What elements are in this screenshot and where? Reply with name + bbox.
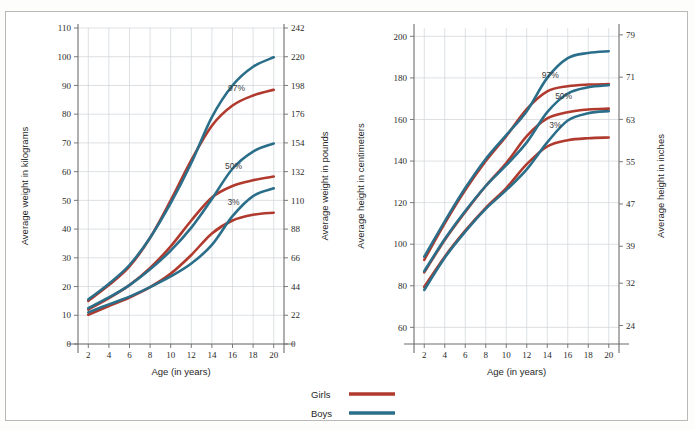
growth-chart-figure: 0102030405060708090100110022446688110132… — [0, 0, 695, 430]
axis-tick-label: 39 — [626, 241, 636, 251]
axis-tick-label: 10 — [502, 350, 512, 360]
axis-tick-label: 60 — [62, 167, 72, 177]
height-chart: 6080100120140160180200243239475563717924… — [346, 12, 687, 420]
axis-tick-label: 2 — [86, 350, 91, 360]
axis-tick-label: 6 — [127, 350, 132, 360]
axis-tick-label: 8 — [148, 350, 153, 360]
percentile-curve — [88, 177, 273, 310]
percentile-annotation: 50% — [225, 161, 242, 171]
axis-tick-label: 44 — [291, 282, 301, 292]
axis-tick-label: 50 — [62, 196, 72, 206]
axis-tick-label: 12 — [187, 350, 196, 360]
axis-tick-label: 16 — [563, 350, 573, 360]
percentile-annotation: 3% — [227, 197, 240, 207]
axis-tick-label: 55 — [626, 157, 636, 167]
axis-tick-label: 90 — [62, 81, 72, 91]
axis-tick-label: 71 — [626, 72, 635, 82]
axis-tick-label: 32 — [626, 278, 635, 288]
axis-tick-label: 8 — [484, 350, 489, 360]
percentile-curve — [88, 143, 273, 308]
axis-tick-label: 40 — [62, 224, 72, 234]
axis-tick-label: 242 — [291, 23, 305, 33]
percentile-annotation: 3% — [549, 120, 562, 130]
axis-tick-label: 80 — [398, 281, 408, 291]
axis-tick-label: 100 — [58, 52, 72, 62]
axis-title: Average height in inches — [655, 134, 666, 238]
axis-tick-label: 160 — [394, 115, 408, 125]
axis-tick-label: 18 — [584, 350, 594, 360]
axis-tick-label: 200 — [394, 32, 408, 42]
axis-tick-label: 110 — [291, 196, 305, 206]
axis-tick-label: 70 — [62, 138, 72, 148]
axis-tick-label: 66 — [291, 253, 301, 263]
axis-tick-label: 60 — [398, 323, 408, 333]
axis-tick-label: 30 — [62, 253, 72, 263]
axis-title: Average weight in pounds — [319, 131, 330, 240]
axis-tick-label: 24 — [626, 321, 636, 331]
axis-tick-label: 79 — [626, 30, 636, 40]
percentile-curve — [88, 213, 273, 315]
axis-tick-label: 4 — [107, 350, 112, 360]
axis-tick-label: 12 — [522, 350, 531, 360]
axis-tick-label: 16 — [228, 350, 238, 360]
axis-tick-label: 80 — [62, 109, 72, 119]
axis-tick-label: 220 — [291, 52, 305, 62]
axis-tick-label: 88 — [291, 224, 301, 234]
percentile-annotation: 97% — [228, 83, 245, 93]
percentile-curve — [424, 85, 609, 271]
axis-tick-label: 20 — [604, 350, 614, 360]
figure-frame: 0102030405060708090100110022446688110132… — [5, 11, 688, 421]
axis-tick-label: 4 — [443, 350, 448, 360]
axis-tick-label: 180 — [394, 73, 408, 83]
axis-tick-label: 20 — [62, 282, 72, 292]
axis-title: Age (in years) — [487, 366, 546, 377]
axis-tick-label: 10 — [166, 350, 176, 360]
axis-tick-label: 176 — [291, 109, 305, 119]
axis-tick-label: 14 — [543, 350, 553, 360]
axis-tick-label: 110 — [58, 23, 72, 33]
axis-tick-label: 120 — [394, 198, 408, 208]
axis-tick-label: 14 — [207, 350, 217, 360]
axis-tick-label: 6 — [463, 350, 468, 360]
axis-tick-label: 22 — [291, 310, 300, 320]
weight-chart: 0102030405060708090100110022446688110132… — [6, 12, 347, 420]
axis-tick-label: 63 — [626, 115, 636, 125]
axis-tick-label: 47 — [626, 199, 636, 209]
axis-tick-label: 198 — [291, 81, 305, 91]
axis-tick-label: 100 — [394, 239, 408, 249]
axis-tick-label: 18 — [249, 350, 259, 360]
percentile-annotation: 97% — [542, 70, 559, 80]
axis-tick-label: 20 — [269, 350, 279, 360]
axis-title: Average weight in kilograms — [19, 126, 30, 245]
percentile-annotation: 50% — [555, 91, 572, 101]
axis-tick-label: 140 — [394, 156, 408, 166]
axis-tick-label: 10 — [62, 310, 72, 320]
axis-title: Average height in centimeters — [355, 123, 366, 249]
axis-title: Age (in years) — [151, 366, 210, 377]
axis-tick-label: 132 — [291, 167, 305, 177]
axis-tick-label: 154 — [291, 138, 305, 148]
axis-tick-label: 2 — [422, 350, 427, 360]
